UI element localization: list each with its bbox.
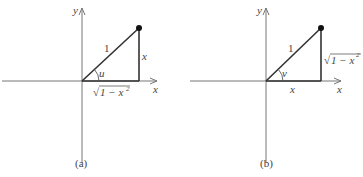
figure-a: y x 1 u x √ 1 − x 2 (a) — [2, 4, 158, 170]
radical-sign: √ — [93, 86, 100, 98]
horizontal-side-label-a: √ 1 − x 2 — [93, 85, 130, 98]
hypotenuse-label-b: 1 — [288, 42, 294, 54]
angle-label-a: u — [99, 67, 105, 79]
y-axis-label-a: y — [72, 4, 78, 16]
vertical-side-label-a: x — [141, 50, 147, 62]
caption-b: (b) — [260, 157, 273, 170]
caption-a: (a) — [75, 157, 88, 170]
hypotenuse-a — [82, 28, 139, 81]
exponent: 2 — [356, 51, 360, 59]
radicand: 1 − x — [100, 86, 123, 98]
hypotenuse-label-a: 1 — [104, 42, 110, 54]
x-axis-label-b: x — [336, 83, 342, 95]
x-axis-label-a: x — [152, 83, 158, 95]
point-b — [318, 25, 324, 31]
vertical-side-label-b: √ 1 − x 2 — [324, 51, 361, 66]
exponent: 2 — [126, 85, 130, 93]
horizontal-side-label-b: x — [289, 83, 295, 95]
radical-sign: √ — [324, 54, 331, 66]
hypotenuse-b — [266, 28, 321, 81]
radicand: 1 − x — [331, 54, 354, 66]
figure-b: y x 1 v √ 1 − x 2 x (b) — [190, 4, 361, 170]
point-a — [136, 25, 142, 31]
angle-label-b: v — [282, 67, 287, 79]
y-axis-label-b: y — [256, 4, 262, 16]
